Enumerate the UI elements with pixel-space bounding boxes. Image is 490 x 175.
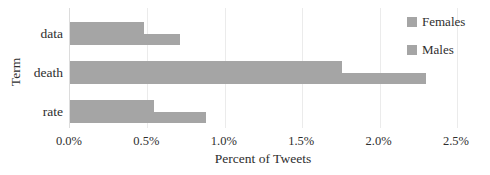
x-tick-label: 0.0% bbox=[56, 134, 82, 149]
legend-swatch-males bbox=[407, 45, 417, 55]
bar-males-rate bbox=[70, 112, 206, 124]
x-tick-label: 0.5% bbox=[133, 134, 159, 149]
legend: FemalesMales bbox=[407, 14, 465, 70]
legend-label-females: Females bbox=[422, 14, 465, 30]
legend-label-males: Males bbox=[422, 42, 454, 58]
x-axis-title: Percent of Tweets bbox=[69, 151, 457, 167]
legend-item-females: Females bbox=[407, 14, 465, 30]
bar-females-rate bbox=[70, 100, 154, 112]
x-tick-label: 1.5% bbox=[288, 134, 314, 149]
gridline bbox=[380, 8, 381, 128]
category-label-rate: rate bbox=[0, 103, 63, 120]
bar-males-data bbox=[70, 34, 180, 46]
bar-males-death bbox=[70, 73, 426, 85]
legend-item-males: Males bbox=[407, 42, 465, 58]
legend-swatch-females bbox=[407, 17, 417, 27]
category-label-data: data bbox=[0, 25, 63, 42]
category-label-death: death bbox=[0, 64, 63, 81]
x-tick-label: 1.0% bbox=[211, 134, 237, 149]
x-tick-label: 2.0% bbox=[366, 134, 392, 149]
tweets-percent-bar-chart: Term datadeathrate 0.0%0.5%1.0%1.5%2.0%2… bbox=[0, 0, 490, 175]
plot-area bbox=[69, 8, 458, 128]
x-tick-label: 2.5% bbox=[443, 134, 469, 149]
bar-females-death bbox=[70, 61, 342, 73]
bar-females-data bbox=[70, 22, 144, 34]
